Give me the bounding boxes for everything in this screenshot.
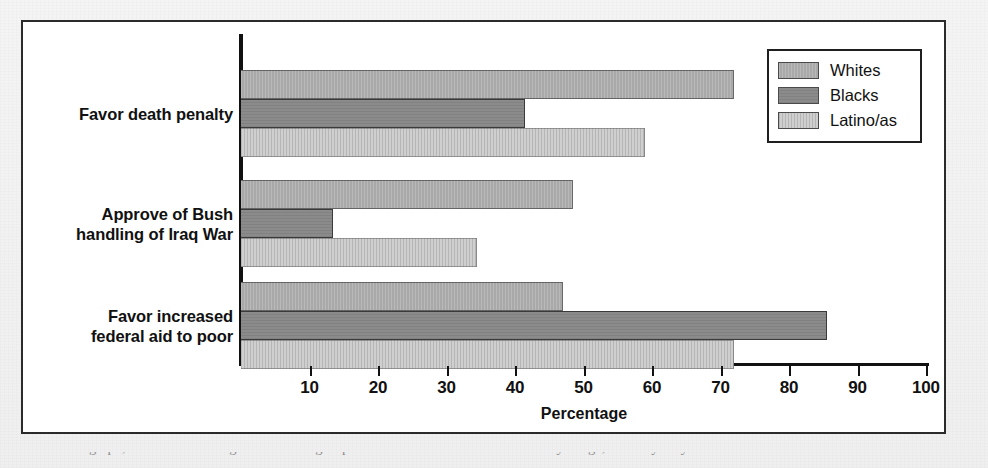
bar-whites-group-1 <box>241 70 734 99</box>
bar-blacks-group-1 <box>241 99 525 128</box>
bar-latinos-group-3 <box>241 340 734 369</box>
bar-latinos-group-1 <box>241 128 645 157</box>
x-tick-label-10: 10 <box>285 378 335 398</box>
legend-item-blacks: Blacks <box>778 83 911 108</box>
category-label-3: Favor increasedfederal aid to poor <box>27 306 233 346</box>
x-tick-label-100: 100 <box>901 378 951 398</box>
x-tick-40 <box>515 366 517 376</box>
cropped-caption-text: shown on the graph, differences among ra… <box>8 452 980 468</box>
legend-swatch-latinos <box>778 112 819 129</box>
plot-area: Favor death penaltyApprove of Bushhandli… <box>23 22 944 432</box>
x-tick-60 <box>652 366 654 376</box>
chart-legend: WhitesBlacksLatino/as <box>767 49 922 143</box>
x-tick-20 <box>378 366 380 376</box>
x-tick-label-50: 50 <box>559 378 609 398</box>
x-tick-70 <box>721 366 723 376</box>
bar-whites-group-2 <box>241 180 573 209</box>
legend-label-latinos: Latino/as <box>830 111 897 130</box>
bar-blacks-group-2 <box>241 209 333 238</box>
x-tick-label-70: 70 <box>696 378 746 398</box>
x-tick-80 <box>789 366 791 376</box>
x-axis-title: Percentage <box>239 405 929 423</box>
x-tick-label-20: 20 <box>353 378 403 398</box>
x-tick-30 <box>447 366 449 376</box>
legend-swatch-whites <box>778 62 819 79</box>
bar-blacks-group-3 <box>241 311 827 340</box>
x-tick-90 <box>858 366 860 376</box>
legend-label-blacks: Blacks <box>830 86 879 105</box>
x-tick-label-80: 80 <box>764 378 814 398</box>
legend-label-whites: Whites <box>830 61 880 80</box>
category-label-line: Favor death penalty <box>27 104 233 124</box>
category-label-2: Approve of Bushhandling of Iraq War <box>27 204 233 244</box>
x-tick-label-30: 30 <box>422 378 472 398</box>
bar-latinos-group-2 <box>241 238 477 267</box>
legend-swatch-blacks <box>778 87 819 104</box>
category-label-line: Approve of Bush <box>27 204 233 224</box>
bar-whites-group-3 <box>241 282 563 311</box>
x-tick-label-90: 90 <box>833 378 883 398</box>
x-tick-label-40: 40 <box>490 378 540 398</box>
x-tick-50 <box>584 366 586 376</box>
legend-item-latinos: Latino/as <box>778 108 911 133</box>
legend-item-whites: Whites <box>778 58 911 83</box>
category-label-line: federal aid to poor <box>27 326 233 346</box>
cropped-caption-line: shown on the graph, differences among ra… <box>8 452 980 455</box>
category-label-1: Favor death penalty <box>27 104 233 124</box>
x-tick-100 <box>926 366 928 376</box>
category-label-line: handling of Iraq War <box>27 224 233 244</box>
category-label-line: Favor increased <box>27 306 233 326</box>
figure-frame: Favor death penaltyApprove of Bushhandli… <box>21 20 946 434</box>
x-tick-10 <box>310 366 312 376</box>
x-tick-label-60: 60 <box>627 378 677 398</box>
